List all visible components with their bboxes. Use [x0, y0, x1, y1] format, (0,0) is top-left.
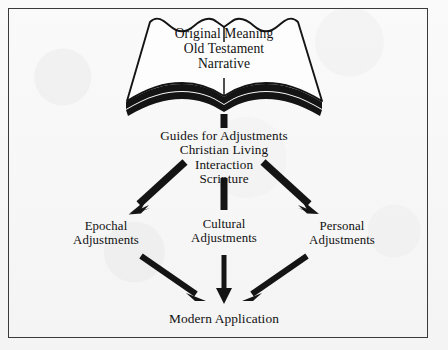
guides-line-2: Christian Living [0, 143, 448, 156]
branch-label-personal: Personal Adjustments [282, 219, 402, 248]
branch-label-epochal: Epochal Adjustments [46, 219, 166, 248]
book-label: Original Meaning Old Testament Narrative [0, 26, 448, 72]
book-line-3: Narrative [0, 57, 448, 71]
outcome-label: Modern Application [0, 312, 448, 326]
connector-epochal-to-modern [141, 256, 206, 301]
guides-line-3: Interaction [0, 158, 448, 171]
branch-label-cultural: Cultural Adjustments [164, 217, 284, 246]
connector-cultural-to-modern [216, 255, 232, 304]
branch-epochal-line-2: Adjustments [46, 234, 166, 247]
figure-page: Original Meaning Old Testament Narrative… [0, 0, 448, 350]
guides-line-4: Scripture [0, 172, 448, 185]
branch-cultural-line-2: Adjustments [164, 232, 284, 245]
book-line-2: Old Testament [0, 42, 448, 56]
book-line-1: Original Meaning [0, 27, 448, 41]
branch-personal-line-2: Adjustments [282, 234, 402, 247]
connector-personal-to-modern [242, 256, 307, 301]
connector-book-to-guides [221, 114, 228, 128]
guides-label: Guides for Adjustments Christian Living … [0, 128, 448, 187]
branch-cultural-line-1: Cultural [164, 218, 284, 231]
branch-epochal-line-1: Epochal [46, 220, 166, 233]
guides-line-1: Guides for Adjustments [0, 129, 448, 142]
branch-personal-line-1: Personal [282, 220, 402, 233]
